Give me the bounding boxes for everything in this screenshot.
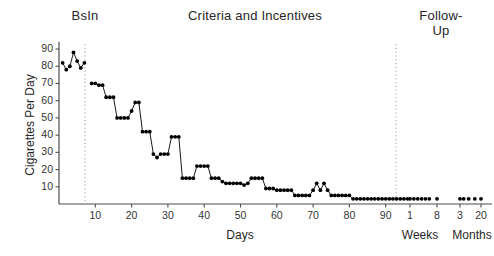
data-point bbox=[377, 197, 381, 201]
data-point bbox=[322, 181, 326, 185]
axis-tick-label: 10 bbox=[85, 209, 105, 221]
phase-label-baseline: BsIn bbox=[40, 8, 130, 23]
data-point bbox=[101, 83, 105, 87]
data-point bbox=[75, 59, 79, 63]
data-point bbox=[181, 176, 185, 180]
data-point bbox=[268, 187, 272, 191]
data-point bbox=[90, 82, 94, 86]
data-point bbox=[311, 188, 315, 192]
data-point bbox=[279, 188, 283, 192]
data-point bbox=[435, 197, 439, 201]
data-point bbox=[224, 181, 228, 185]
axis-tick-label: 60 bbox=[31, 94, 53, 106]
data-point bbox=[141, 130, 145, 134]
data-point bbox=[235, 181, 239, 185]
data-point bbox=[108, 95, 112, 99]
axis-tick-label: 20 bbox=[31, 163, 53, 175]
data-point bbox=[264, 187, 268, 191]
axis-tick-label: 8 bbox=[427, 209, 447, 221]
data-point bbox=[329, 193, 333, 197]
data-point bbox=[112, 95, 116, 99]
axis-tick-label: 20 bbox=[471, 209, 491, 221]
data-point bbox=[61, 61, 65, 65]
data-point bbox=[358, 197, 362, 201]
data-point bbox=[473, 197, 477, 201]
data-point bbox=[220, 180, 224, 184]
phase-label-followup: Follow- Up bbox=[392, 8, 490, 38]
data-point bbox=[119, 116, 123, 120]
data-point bbox=[217, 176, 221, 180]
data-point bbox=[249, 176, 253, 180]
data-point bbox=[304, 193, 308, 197]
data-point bbox=[351, 197, 355, 201]
axis-tick-label: 90 bbox=[31, 42, 53, 54]
data-point bbox=[173, 135, 177, 139]
data-point bbox=[177, 135, 181, 139]
data-point bbox=[293, 193, 297, 197]
data-point bbox=[326, 188, 330, 192]
axis-tick-label: 3 bbox=[450, 209, 470, 221]
data-point bbox=[479, 197, 483, 201]
data-point bbox=[391, 197, 395, 201]
data-point bbox=[202, 164, 206, 168]
axis-tick-label: 80 bbox=[339, 209, 359, 221]
data-point bbox=[300, 193, 304, 197]
data-point bbox=[188, 176, 192, 180]
data-point bbox=[148, 130, 152, 134]
x-axis-title: Days bbox=[180, 228, 300, 242]
data-point bbox=[253, 176, 257, 180]
data-point bbox=[289, 188, 293, 192]
data-point bbox=[246, 181, 250, 185]
data-point bbox=[286, 188, 290, 192]
data-point bbox=[97, 83, 101, 87]
data-point bbox=[412, 197, 416, 201]
data-point bbox=[380, 197, 384, 201]
data-point bbox=[83, 61, 87, 65]
data-point bbox=[122, 116, 126, 120]
data-point bbox=[462, 197, 466, 201]
data-point bbox=[366, 197, 370, 201]
data-point bbox=[93, 82, 97, 86]
data-point bbox=[151, 152, 155, 156]
data-point bbox=[195, 164, 199, 168]
axis-tick-label: 30 bbox=[31, 145, 53, 157]
data-point bbox=[369, 197, 373, 201]
data-point bbox=[115, 116, 119, 120]
data-point bbox=[72, 51, 76, 55]
data-point bbox=[282, 188, 286, 192]
data-point bbox=[395, 197, 399, 201]
data-point bbox=[191, 176, 195, 180]
data-point bbox=[348, 193, 352, 197]
data-point bbox=[162, 152, 166, 156]
data-point bbox=[206, 164, 210, 168]
data-point bbox=[458, 197, 462, 201]
axis-tick-label: 50 bbox=[231, 209, 251, 221]
data-point bbox=[308, 193, 312, 197]
axis-tick-label: 60 bbox=[267, 209, 287, 221]
data-point bbox=[242, 183, 246, 187]
x-axis-title-weeks: Weeks bbox=[392, 228, 448, 242]
data-point bbox=[318, 188, 322, 192]
data-point bbox=[362, 197, 366, 201]
data-point bbox=[355, 197, 359, 201]
data-point bbox=[260, 176, 264, 180]
data-point bbox=[133, 101, 137, 105]
data-point bbox=[271, 187, 275, 191]
data-point bbox=[68, 64, 72, 68]
data-point bbox=[420, 197, 424, 201]
data-point bbox=[184, 176, 188, 180]
data-point bbox=[130, 109, 134, 113]
axis-tick-label: 80 bbox=[31, 59, 53, 71]
data-point bbox=[398, 197, 402, 201]
axis-tick-label: 20 bbox=[122, 209, 142, 221]
data-point bbox=[257, 176, 261, 180]
axis-tick-label: 10 bbox=[31, 180, 53, 192]
data-point bbox=[275, 188, 279, 192]
data-point bbox=[231, 181, 235, 185]
data-point bbox=[408, 197, 412, 201]
data-point bbox=[137, 101, 141, 105]
data-point bbox=[402, 197, 406, 201]
axis-tick-label: 40 bbox=[31, 128, 53, 140]
axis-tick-label: 50 bbox=[31, 111, 53, 123]
data-point bbox=[126, 116, 130, 120]
